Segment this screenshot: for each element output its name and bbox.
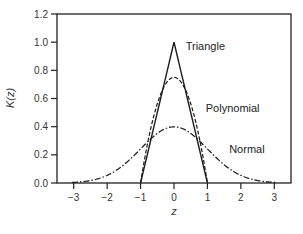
x-tick-label: 1 (205, 192, 211, 203)
kernel-functions-chart: 0.00.20.40.60.81.01.2 −3−2−10123 Triangl… (0, 0, 303, 234)
y-tick-label: 0.8 (34, 65, 48, 76)
y-axis-ticks: 0.00.20.40.60.81.01.2 (34, 9, 57, 189)
series-polynomial-label: Polynomial (206, 102, 260, 114)
x-axis-ticks: −3−2−10123 (68, 183, 277, 203)
y-tick-label: 1.0 (34, 37, 48, 48)
x-tick-label: −2 (101, 192, 113, 203)
y-tick-label: 0.0 (34, 178, 48, 189)
y-tick-label: 1.2 (34, 9, 48, 20)
y-tick-label: 0.4 (34, 121, 48, 132)
x-tick-label: −1 (135, 192, 147, 203)
series-triangle-line (141, 42, 208, 183)
y-tick-label: 0.2 (34, 149, 48, 160)
series-polynomial-line (141, 77, 208, 183)
series-triangle-label: Triangle (186, 40, 225, 52)
y-axis-label: K(z) (4, 88, 16, 109)
x-tick-label: 0 (171, 192, 177, 203)
x-tick-label: 2 (238, 192, 244, 203)
series-labels: TrianglePolynomialNormal (186, 40, 265, 155)
plot-frame (57, 14, 291, 183)
x-tick-label: 3 (272, 192, 278, 203)
x-tick-label: −3 (68, 192, 80, 203)
x-axis-label: z (170, 205, 177, 217)
series-normal-label: Normal (229, 143, 264, 155)
y-tick-label: 0.6 (34, 93, 48, 104)
